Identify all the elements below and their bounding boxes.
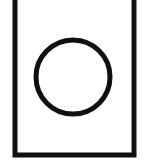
inner-circle — [36, 40, 110, 114]
figure-svg — [0, 0, 148, 162]
figure-canvas: Circle inside rectangle outline rectangl… — [0, 0, 148, 162]
